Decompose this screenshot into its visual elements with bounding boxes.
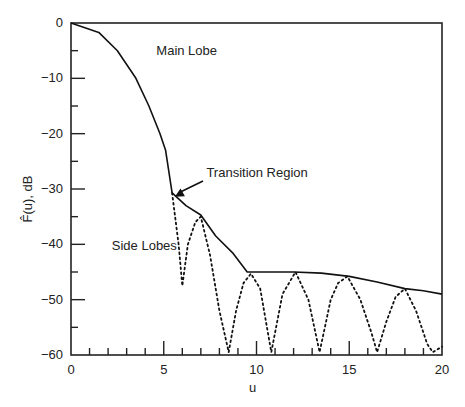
y-tick-label: 0: [56, 15, 63, 30]
y-tick-label: −50: [41, 292, 63, 307]
axis-ticks: [71, 51, 423, 355]
labels: 0−10−20−30−40−50−6005101520uF̂(u), dBMai…: [20, 15, 449, 395]
plot-frame: [71, 23, 442, 355]
x-tick-label: 20: [435, 362, 449, 377]
annotation-main-lobe: Main Lobe: [156, 43, 217, 58]
plot-area: [71, 23, 442, 352]
y-tick-label: −20: [41, 126, 63, 141]
envelope-line: [71, 23, 442, 294]
y-tick-label: −60: [41, 347, 63, 362]
y-tick-label: −30: [41, 181, 63, 196]
y-tick-label: −10: [41, 70, 63, 85]
x-tick-label: 15: [342, 362, 356, 377]
y-axis-label: F̂(u), dB: [20, 176, 35, 223]
x-tick-label: 10: [249, 362, 263, 377]
x-axis-label: u: [249, 380, 256, 395]
axes: [71, 23, 442, 355]
x-tick-label: 0: [67, 362, 74, 377]
annotation-transition-region: Transition Region: [206, 165, 307, 180]
chart: 0−10−20−30−40−50−6005101520uF̂(u), dBMai…: [0, 0, 465, 407]
y-tick-label: −40: [41, 236, 63, 251]
annotation-side-lobes: Side Lobes: [112, 238, 178, 253]
x-tick-label: 5: [160, 362, 167, 377]
arrow-line: [179, 181, 203, 193]
